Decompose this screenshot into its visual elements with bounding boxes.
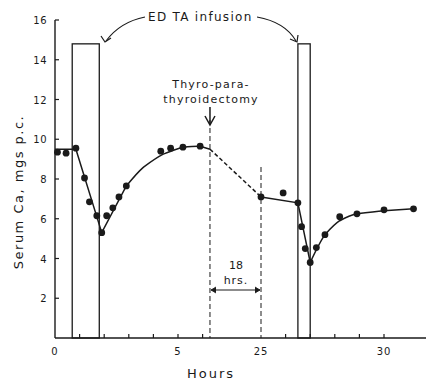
y-tick-label: 6	[40, 214, 47, 225]
gap-label-line2: hrs.	[224, 274, 249, 287]
data-point	[313, 244, 320, 251]
data-point	[280, 190, 287, 197]
x-axis-label: Hours	[187, 366, 235, 381]
data-points	[54, 143, 417, 266]
data-point	[98, 229, 105, 236]
gap-label-line1: 18	[229, 259, 243, 272]
data-point	[123, 183, 130, 190]
data-point	[54, 149, 61, 156]
edta-bar	[298, 44, 310, 338]
data-point	[109, 204, 116, 211]
data-point	[197, 143, 204, 150]
serum-calcium-chart: 246810121416052530 Serum Ca, mgs p.c. Ho…	[0, 0, 434, 386]
edta-arrow-right	[257, 17, 296, 41]
y-tick-label: 2	[40, 293, 47, 304]
x-tick-label: 5	[174, 346, 181, 357]
event-markers	[101, 17, 298, 338]
data-point	[307, 259, 314, 266]
data-point	[302, 245, 309, 252]
data-point	[93, 212, 100, 219]
y-tick-label: 12	[33, 95, 47, 106]
fitted-curve	[55, 146, 414, 262]
y-axis-label: Serum Ca, mgs p.c.	[11, 115, 26, 269]
labels: Serum Ca, mgs p.c. Hours ED TA infusion …	[11, 10, 259, 381]
surgery-label-line1: Thyro-para-	[171, 78, 250, 91]
data-point	[354, 210, 361, 217]
y-tick-label: 16	[33, 15, 47, 26]
data-point	[322, 231, 329, 238]
surgery-label-line2: thyroidectomy	[163, 93, 259, 106]
data-point	[63, 150, 70, 157]
data-point	[295, 199, 302, 206]
data-point	[258, 193, 265, 200]
fitted-curve-post-surgery	[261, 197, 414, 263]
x-tick-label: 0	[51, 346, 58, 357]
y-tick-label: 8	[40, 174, 47, 185]
y-tick-label: 4	[40, 254, 47, 265]
edta-bar	[72, 44, 99, 338]
axes: 246810121416052530	[33, 15, 426, 357]
fitted-curve-pre-surgery	[55, 146, 210, 233]
edta-arrow-left	[106, 17, 145, 41]
y-tick-label: 10	[33, 134, 47, 145]
x-tick-label: 25	[254, 346, 269, 357]
x-tick-label: 30	[377, 346, 392, 357]
y-tick-label: 14	[33, 55, 47, 66]
fitted-curve-gap-dashed	[210, 149, 261, 197]
data-point	[167, 145, 174, 152]
gap-arrow-right-head	[255, 287, 260, 293]
data-point	[410, 205, 417, 212]
data-point	[73, 145, 80, 152]
data-point	[298, 223, 305, 230]
data-point	[86, 198, 93, 205]
data-point	[116, 193, 123, 200]
edta-label: ED TA infusion	[148, 10, 253, 24]
data-point	[103, 212, 110, 219]
data-point	[180, 144, 187, 151]
gap-arrow-left-head	[211, 287, 216, 293]
data-point	[381, 206, 388, 213]
data-point	[336, 213, 343, 220]
data-point	[81, 175, 88, 182]
data-point	[157, 148, 164, 155]
